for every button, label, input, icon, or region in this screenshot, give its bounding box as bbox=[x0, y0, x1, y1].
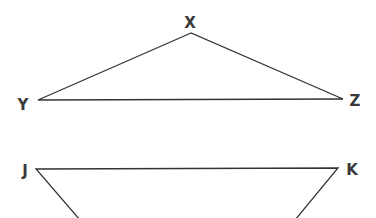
vertex-label-y: Y bbox=[17, 96, 30, 114]
triangle-xyz bbox=[38, 33, 343, 100]
vertex-label-x: X bbox=[184, 14, 196, 32]
trapezoid-jk bbox=[36, 168, 338, 218]
vertex-label-z: Z bbox=[350, 92, 361, 110]
vertex-label-j: J bbox=[21, 162, 28, 180]
vertex-label-k: K bbox=[346, 161, 359, 179]
geometry-diagram: X Y Z J K bbox=[0, 0, 376, 218]
